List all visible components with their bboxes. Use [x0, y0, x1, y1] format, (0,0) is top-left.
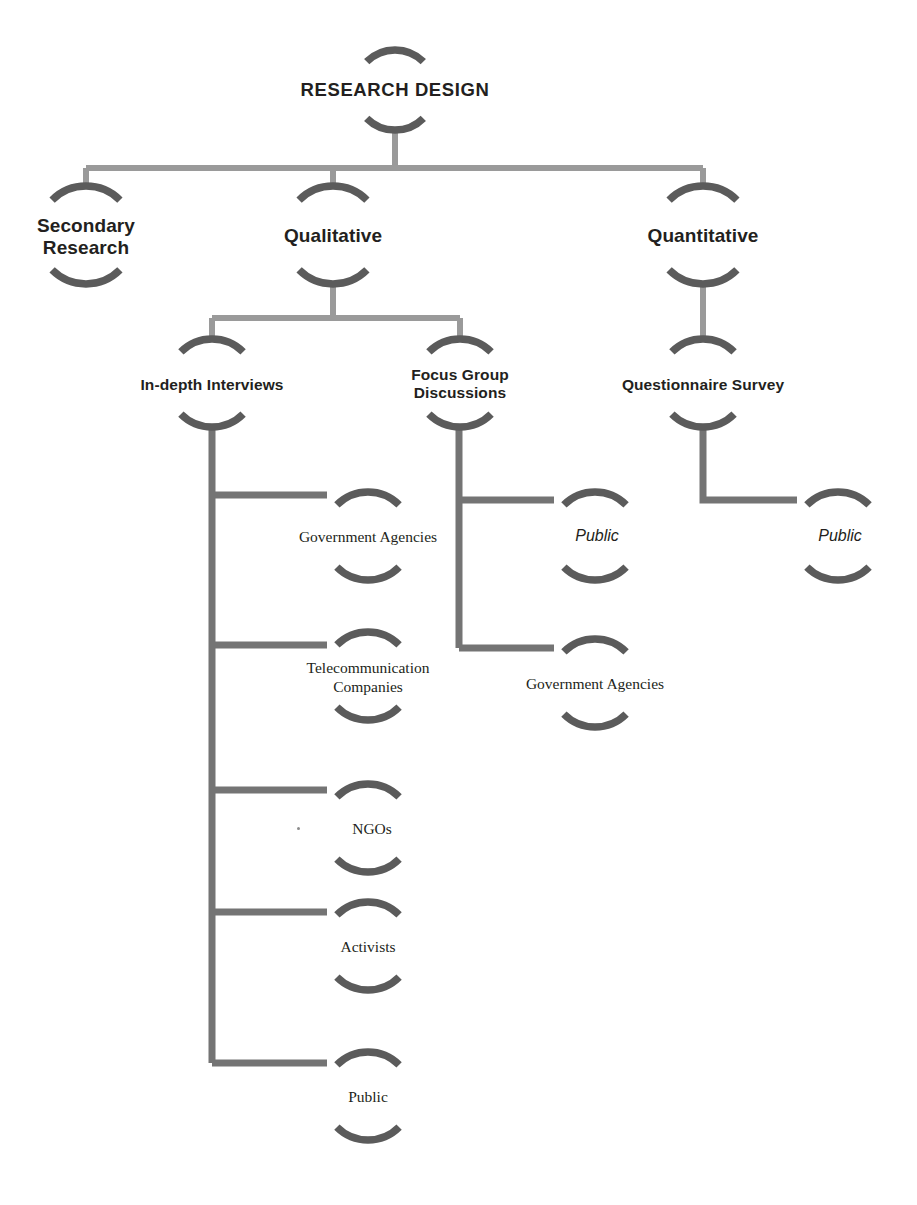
node-label-qs-public[interactable]: Public — [818, 527, 862, 545]
connector-layer: .arc{fill:none;stroke:#5b5b5b;stroke-wid… — [0, 0, 917, 1205]
edge-idi-to-leaves — [212, 424, 327, 1063]
node-label-qualitative[interactable]: Qualitative — [284, 225, 382, 247]
edge-questionnaire-to-public — [703, 424, 797, 500]
node-label-questionnaire-survey[interactable]: Questionnaire Survey — [622, 376, 784, 394]
node-label-fgd-public[interactable]: Public — [575, 527, 619, 545]
node-label-research-design[interactable]: RESEARCH DESIGN — [301, 79, 490, 100]
stray-dot-artifact — [297, 827, 300, 830]
edge-root-to-level1 — [86, 130, 703, 189]
node-label-fgd-government-agencies[interactable]: Government Agencies — [526, 675, 664, 693]
node-label-quantitative[interactable]: Quantitative — [648, 225, 759, 247]
node-label-secondary-research[interactable]: Secondary Research — [37, 215, 135, 258]
research-design-diagram: .arc{fill:none;stroke:#5b5b5b;stroke-wid… — [0, 0, 917, 1205]
node-label-focus-group-discussions[interactable]: Focus Group Discussions — [411, 366, 509, 401]
node-label-in-depth-interviews[interactable]: In-depth Interviews — [140, 376, 283, 394]
edge-fgd-to-leaves — [459, 424, 554, 648]
node-label-idi-ngos[interactable]: NGOs — [352, 820, 392, 838]
node-label-idi-government-agencies[interactable]: Government Agencies — [299, 528, 437, 546]
node-label-idi-telecom-companies[interactable]: Telecommunication Companies — [307, 658, 430, 697]
node-label-idi-public[interactable]: Public — [348, 1088, 388, 1106]
edge-qualitative-to-level2 — [212, 282, 460, 341]
node-label-idi-activists[interactable]: Activists — [340, 938, 395, 956]
